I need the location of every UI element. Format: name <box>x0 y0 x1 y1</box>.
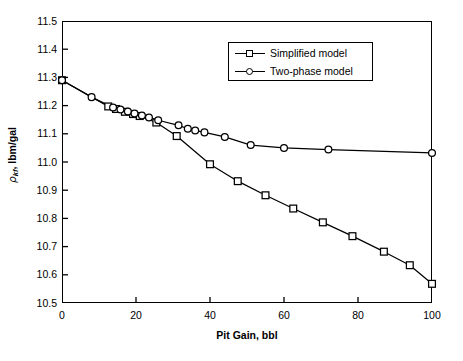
y-axis-tick-label: 11.1 <box>37 128 57 139</box>
y-axis-tick-label: 10.5 <box>37 298 57 309</box>
legend-entry-simplified-model: Simplified model <box>235 46 347 61</box>
x-axis-tick-label: 60 <box>278 310 290 321</box>
chart-figure: 11.511.411.311.211.111.010.910.810.710.6… <box>0 0 463 361</box>
x-axis-tick-labels: 020406080100 <box>0 310 463 326</box>
legend-marker-circle-icon <box>235 66 265 77</box>
y-axis-tick-label: 10.8 <box>37 213 57 224</box>
y-axis-tick-label: 11.2 <box>37 100 57 111</box>
y-axis-tick-label: 11.4 <box>37 44 57 55</box>
x-axis-tick-label: 80 <box>352 310 364 321</box>
y-axis-tick-label: 10.9 <box>37 185 57 196</box>
y-axis-title: ρkf, lbm/gal <box>6 90 20 220</box>
legend-marker-square-icon <box>235 48 265 59</box>
y-axis-tick-label: 11.5 <box>37 16 57 27</box>
y-axis-unit: , lbm/gal <box>6 127 18 170</box>
x-axis-tick-label: 40 <box>204 310 216 321</box>
y-axis-tick-label: 10.7 <box>37 241 57 252</box>
legend-entry-two-phase-model: Two-phase model <box>235 64 353 79</box>
y-axis-tick-label: 10.6 <box>37 269 57 280</box>
y-axis-subscript: kf <box>11 170 20 177</box>
y-axis-symbol: ρ <box>6 176 18 183</box>
legend-label-two-phase-model: Two-phase model <box>270 66 353 77</box>
y-axis-tick-label: 11.3 <box>37 72 57 83</box>
chart-legend: Simplified model Two-phase model <box>228 42 373 81</box>
x-axis-tick-label: 100 <box>423 310 441 321</box>
legend-label-simplified-model: Simplified model <box>270 48 347 59</box>
x-axis-title: Pit Gain, bbl <box>62 329 432 341</box>
y-axis-tick-label: 11.0 <box>37 157 57 168</box>
x-axis-tick-label: 0 <box>59 310 65 321</box>
x-axis-tick-label: 20 <box>130 310 142 321</box>
